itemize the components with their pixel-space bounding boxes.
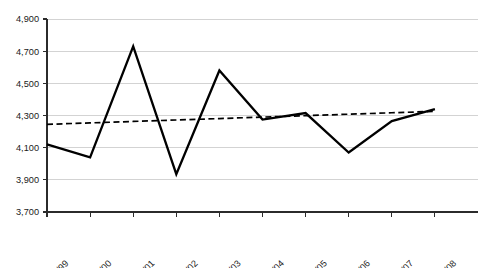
y-axis-tick-label: 4,900 bbox=[16, 14, 39, 24]
y-axis-tick-label: 4,500 bbox=[16, 79, 39, 89]
y-axis-tick-label: 3,700 bbox=[16, 207, 39, 217]
data-line-series bbox=[47, 46, 435, 174]
x-axis-tick-label: 2001/02 bbox=[169, 258, 200, 268]
y-axis-tick-label: 4,300 bbox=[16, 111, 39, 121]
x-axis-tick-label: 1999/00 bbox=[83, 258, 114, 268]
x-axis-tick-label: 2007/08 bbox=[428, 258, 459, 268]
y-axis-tick-label: 4,100 bbox=[16, 143, 39, 153]
x-axis-tick-label: 2003/04 bbox=[255, 258, 286, 268]
y-axis-tick-label: 4,700 bbox=[16, 47, 39, 57]
x-axis-tick-labels: 1998/991999/002000/012001/022002/032003/… bbox=[40, 258, 458, 268]
x-axis-tick-label: 2002/03 bbox=[212, 258, 243, 268]
y-axis-tick-labels: 3,7003,9004,1004,3004,5004,7004,900 bbox=[16, 14, 39, 217]
x-axis-tick-label: 2004/05 bbox=[298, 258, 329, 268]
x-axis-tick-label: 2005/06 bbox=[342, 258, 373, 268]
x-axis-tick-label: 2000/01 bbox=[126, 258, 157, 268]
line-chart: 3,7003,9004,1004,3004,5004,7004,900 1998… bbox=[0, 0, 486, 268]
chart-plot-area: 3,7003,9004,1004,3004,5004,7004,900 1998… bbox=[0, 0, 486, 268]
x-axis-tick-label: 2006/07 bbox=[385, 258, 416, 268]
x-axis-tick-label: 1998/99 bbox=[40, 258, 71, 268]
y-axis-tick-label: 3,900 bbox=[16, 175, 39, 185]
